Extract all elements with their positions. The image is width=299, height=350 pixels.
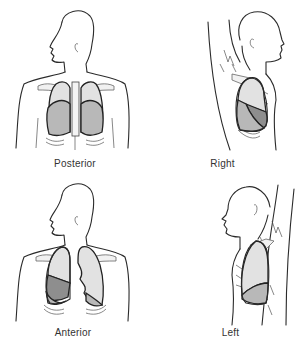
panel-posterior: Posterior — [0, 0, 150, 175]
panel-left: Left — [150, 175, 299, 350]
panel-right: Right — [150, 0, 299, 175]
label-anterior: Anterior — [0, 327, 148, 338]
posterior-right-lower-lobe — [81, 101, 103, 135]
posterior-left-lower-lobe — [47, 101, 70, 136]
posterior-torso-illustration — [0, 0, 150, 175]
left-lateral-illustration — [150, 175, 299, 350]
panel-anterior: Anterior — [0, 175, 150, 350]
right-lateral-illustration — [150, 0, 299, 175]
label-posterior: Posterior — [0, 158, 150, 169]
anterior-torso-illustration — [0, 175, 150, 350]
label-right: Right — [148, 158, 297, 169]
label-left: Left — [156, 327, 299, 338]
